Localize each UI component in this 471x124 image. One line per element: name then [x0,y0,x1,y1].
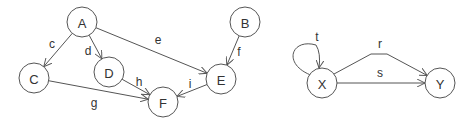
edge-label-d: d [85,44,92,58]
node-label: D [104,66,113,81]
edge-label-t: t [315,30,319,44]
node-label: X [318,77,327,92]
node-x: X [307,68,337,98]
node-label: F [159,96,167,111]
node-label: C [29,72,38,87]
node-b: B [230,7,260,37]
node-a: A [67,7,97,37]
node-label: E [217,73,226,88]
node-e: E [206,64,236,94]
node-d: D [94,57,124,87]
nodes-layer: ABCDEFXY [19,7,455,117]
edge-label-g: g [91,96,98,110]
edge-e-f [177,85,207,97]
edge-label-r: r [378,37,382,51]
edge-label-s: s [377,66,383,80]
edge-c-f [49,81,149,100]
node-label: Y [436,77,445,92]
edge-label-e: e [155,33,162,47]
edge-label-i: i [189,77,192,91]
edge-label-f: f [237,45,241,59]
node-label: A [78,16,87,31]
node-c: C [19,63,49,93]
edge-label-h: h [136,75,143,89]
diagram-canvas: ABCDEFXY cdefghitrs [0,0,471,124]
edge-label-c: c [49,37,55,51]
node-y: Y [425,68,455,98]
node-f: F [148,87,178,117]
node-label: B [241,16,250,31]
